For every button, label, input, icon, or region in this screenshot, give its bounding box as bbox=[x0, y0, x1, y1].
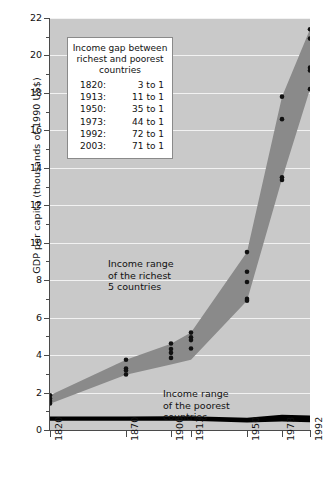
data-point bbox=[124, 357, 129, 362]
y-tick-major bbox=[44, 243, 49, 244]
x-tick bbox=[191, 431, 192, 437]
data-point bbox=[245, 250, 250, 255]
y-tick-label: 4 bbox=[2, 350, 42, 360]
x-tick-label: 1992 bbox=[314, 417, 324, 441]
legend-row-ratio: 35 to 1 bbox=[114, 103, 164, 115]
y-tick-major bbox=[44, 318, 49, 319]
y-tick-label: 0 bbox=[2, 425, 42, 435]
legend-row-year: 1950: bbox=[80, 103, 114, 115]
data-point bbox=[280, 178, 285, 183]
x-tick-label: 1950 bbox=[251, 417, 261, 441]
y-tick-minor bbox=[46, 299, 49, 300]
y-tick-minor bbox=[46, 74, 49, 75]
y-tick-minor bbox=[46, 149, 49, 150]
y-tick-major bbox=[44, 430, 49, 431]
data-point bbox=[124, 368, 129, 373]
data-point bbox=[124, 372, 129, 377]
y-tick-major bbox=[44, 168, 49, 169]
legend-row: 1950:35 to 1 bbox=[72, 103, 168, 115]
legend-row-year: 1820: bbox=[80, 79, 114, 91]
x-tick-label: 1973 bbox=[286, 417, 296, 441]
y-tick-minor bbox=[46, 187, 49, 188]
y-tick-label: 12 bbox=[2, 200, 42, 210]
y-tick-minor bbox=[46, 336, 49, 337]
y-tick-major bbox=[44, 355, 49, 356]
x-tick-label: 1870 bbox=[130, 417, 140, 441]
y-tick-label: 6 bbox=[2, 313, 42, 323]
legend-row-year: 1913: bbox=[80, 91, 114, 103]
data-point bbox=[280, 117, 285, 122]
x-tick bbox=[282, 431, 283, 437]
y-tick-minor bbox=[46, 112, 49, 113]
data-point bbox=[169, 356, 174, 361]
x-tick bbox=[171, 431, 172, 437]
data-point bbox=[308, 27, 310, 32]
chart-root: GDP per capita (thousands of 1990 US$) 0… bbox=[0, 0, 324, 486]
x-tick bbox=[126, 431, 127, 437]
legend-title: Income gap between richest and poorest c… bbox=[72, 43, 168, 76]
legend-row: 1973:44 to 1 bbox=[72, 116, 168, 128]
y-tick-major bbox=[44, 280, 49, 281]
legend-row: 2003:71 to 1 bbox=[72, 140, 168, 152]
data-point bbox=[280, 94, 285, 99]
richest-band-label: Income range of the richest 5 countries bbox=[108, 258, 174, 293]
data-point bbox=[189, 346, 194, 351]
y-tick-label: 14 bbox=[2, 163, 42, 173]
data-point bbox=[245, 280, 250, 285]
poorest-band-label: Income range of the poorest countries bbox=[163, 388, 230, 423]
x-tick bbox=[310, 431, 311, 437]
y-tick-minor bbox=[46, 374, 49, 375]
y-tick-minor bbox=[46, 224, 49, 225]
legend-row-ratio: 44 to 1 bbox=[114, 116, 164, 128]
data-point bbox=[245, 269, 250, 274]
legend-row: 1913:11 to 1 bbox=[72, 91, 168, 103]
data-point bbox=[169, 351, 174, 356]
x-tick bbox=[50, 431, 51, 437]
x-tick-label: 1820 bbox=[54, 417, 64, 441]
y-tick-label: 18 bbox=[2, 88, 42, 98]
y-tick-minor bbox=[46, 411, 49, 412]
legend-rows: 1820:3 to 11913:11 to 11950:35 to 11973:… bbox=[72, 79, 168, 152]
y-tick-label: 16 bbox=[2, 125, 42, 135]
income-gap-legend: Income gap between richest and poorest c… bbox=[67, 37, 173, 159]
y-tick-major bbox=[44, 55, 49, 56]
legend-row-ratio: 3 to 1 bbox=[114, 79, 164, 91]
legend-row-ratio: 72 to 1 bbox=[114, 128, 164, 140]
data-point bbox=[189, 338, 194, 343]
legend-row: 1820:3 to 1 bbox=[72, 79, 168, 91]
x-tick bbox=[247, 431, 248, 437]
legend-row: 1992:72 to 1 bbox=[72, 128, 168, 140]
legend-row-year: 1992: bbox=[80, 128, 114, 140]
data-point bbox=[245, 298, 250, 303]
y-tick-label: 8 bbox=[2, 275, 42, 285]
y-tick-major bbox=[44, 130, 49, 131]
data-point bbox=[189, 330, 194, 335]
y-tick-major bbox=[44, 205, 49, 206]
y-tick-label: 2 bbox=[2, 388, 42, 398]
data-point bbox=[169, 341, 174, 346]
legend-row-ratio: 71 to 1 bbox=[114, 140, 164, 152]
legend-row-year: 2003: bbox=[80, 140, 114, 152]
y-tick-major bbox=[44, 393, 49, 394]
y-tick-label: 22 bbox=[2, 13, 42, 23]
y-tick-label: 20 bbox=[2, 50, 42, 60]
y-tick-label: 10 bbox=[2, 238, 42, 248]
y-tick-major bbox=[44, 18, 49, 19]
y-tick-minor bbox=[46, 37, 49, 38]
y-tick-minor bbox=[46, 261, 49, 262]
y-tick-major bbox=[44, 93, 49, 94]
legend-row-year: 1973: bbox=[80, 116, 114, 128]
legend-row-ratio: 11 to 1 bbox=[114, 91, 164, 103]
